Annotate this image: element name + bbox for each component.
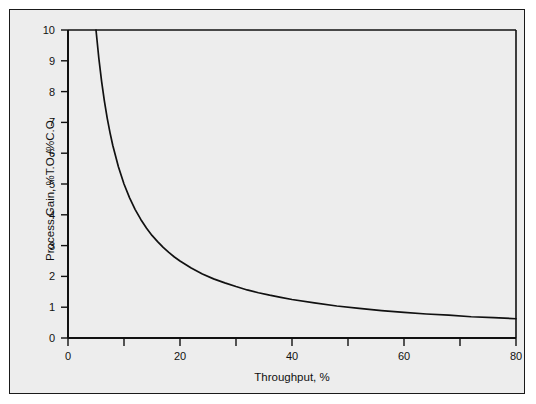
x-tick-label-20: 20 bbox=[165, 351, 195, 362]
figure-container: 10 9 8 7 6 5 4 3 2 1 0 0 20 40 60 80 Thr… bbox=[0, 0, 536, 404]
x-tick-label-40: 40 bbox=[277, 351, 307, 362]
y-tick-label-9: 9 bbox=[33, 56, 55, 67]
x-axis-title: Throughput, % bbox=[68, 371, 516, 383]
figure-frame-border bbox=[9, 9, 525, 394]
x-tick-label-0: 0 bbox=[53, 351, 83, 362]
x-tick-label-80: 80 bbox=[501, 351, 531, 362]
y-axis-title: Process Gain, %T.O./%C.O. bbox=[44, 69, 56, 309]
x-tick-label-60: 60 bbox=[389, 351, 419, 362]
y-tick-label-10: 10 bbox=[33, 25, 55, 36]
y-tick-label-0: 0 bbox=[33, 333, 55, 344]
